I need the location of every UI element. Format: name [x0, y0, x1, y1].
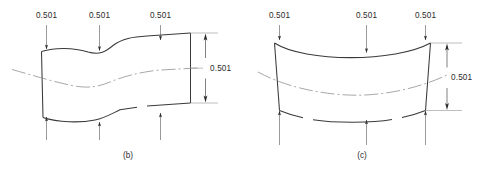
technical-drawing-figure: 0.501 0.501 0.501 0.501 (b) [0, 0, 480, 178]
panel-c-bottom-load-arrows [280, 111, 426, 145]
panel-c-outline-top [275, 43, 431, 58]
panel-b-centerline [12, 68, 200, 87]
panel-b-top-label-1: 0.501 [36, 11, 58, 20]
panel-b-left-edge [42, 52, 44, 118]
panel-c-top-load-arrows [280, 25, 426, 53]
panel-c-side-dimension-label: 0.501 [451, 73, 473, 82]
panel-c-outline-bottom-seg-2 [313, 120, 392, 123]
panel-c-group: 0.501 0.501 0.501 0.501 (c) [258, 11, 473, 160]
drawing-canvas: 0.501 0.501 0.501 0.501 (b) [0, 0, 480, 178]
panel-b-group: 0.501 0.501 0.501 0.501 (b) [12, 11, 232, 160]
panel-b-top-label-2: 0.501 [89, 11, 111, 20]
panel-b-side-dimension-label: 0.501 [210, 64, 232, 73]
panel-c-top-label-1: 0.501 [269, 11, 291, 20]
panel-c-centerline [258, 72, 448, 95]
panel-c-right-edge [426, 43, 431, 111]
panel-c-top-label-2: 0.501 [356, 11, 378, 20]
panel-b-outline-bottom-right [147, 103, 191, 106]
panel-b-outline-bottom-left [43, 107, 137, 122]
panel-b-caption: (b) [123, 151, 133, 160]
panel-c-outline-bottom-seg-3 [402, 111, 426, 118]
panel-b-top-load-arrows [47, 25, 161, 51]
panel-c-outline-bottom-seg-1 [280, 111, 304, 118]
panel-c-left-edge [275, 43, 280, 111]
panel-c-caption: (c) [357, 151, 367, 160]
panel-b-outline-top [42, 33, 191, 53]
panel-c-top-label-3: 0.501 [415, 11, 437, 20]
panel-b-top-label-3: 0.501 [150, 11, 172, 20]
